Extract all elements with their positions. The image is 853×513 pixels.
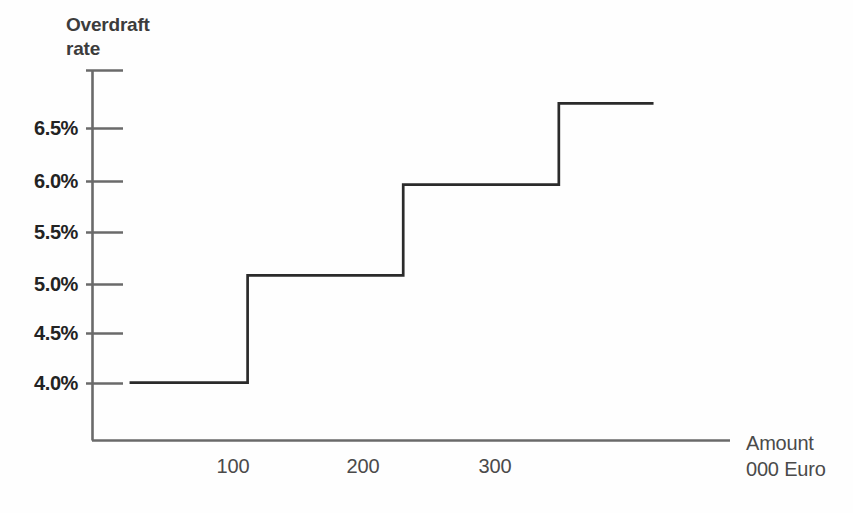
axis-lines (92, 70, 730, 441)
chart-canvas: Overdraft rate 6.5% 6.0% 5.5% 5.0% 4.5% … (0, 0, 853, 513)
step-chart-plot (0, 0, 853, 513)
step-function-line (131, 103, 652, 382)
